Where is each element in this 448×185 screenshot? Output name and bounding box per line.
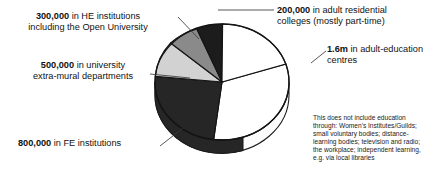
callout-extramural-line2: extra-mural departments [33, 71, 133, 81]
callout-extramural-text: in university [74, 60, 125, 70]
callout-university-extra-mural: 500,000 in university extra-mural depart… [0, 60, 166, 83]
callout-fe-value: 800,000 [18, 138, 51, 148]
callout-centres-value: 1.6m [327, 44, 348, 54]
callout-he-text: in HE institutions [69, 11, 140, 21]
exclusion-note-line-4: the workplace; independent learning, [313, 146, 446, 154]
exclusion-note-line-3: learning bodies; television and radio; [313, 138, 446, 146]
exclusion-note-line-5: e.g. via local libraries [313, 154, 446, 162]
callout-extramural-value: 500,000 [41, 60, 74, 70]
leader-line-centres [311, 51, 326, 63]
figure-canvas: 300,000 in HE institutions including the… [0, 0, 448, 185]
pie-top-face [155, 24, 289, 140]
slice-fe-institutions [155, 76, 222, 139]
callout-residential-text: in adult residential [310, 5, 387, 15]
exclusion-note-line-0: This does not include education [313, 114, 446, 122]
callout-residential-line2: colleges (mostly part-time) [277, 16, 385, 26]
callout-centres-line2: centres [327, 55, 357, 65]
exclusion-note: This does not include educationthrough: … [313, 114, 446, 162]
callout-fe-text: in FE institutions [51, 138, 121, 148]
callout-fe-institutions: 800,000 in FE institutions [18, 138, 184, 149]
callout-centres-text: in adult-education [348, 44, 423, 54]
callout-adult-residential-colleges: 200,000 in adult residential colleges (m… [277, 5, 448, 28]
callout-residential-value: 200,000 [277, 5, 310, 15]
callout-he-institutions: 300,000 in HE institutions including the… [0, 11, 176, 34]
exclusion-note-line-2: small voluntary bodies; distance- [313, 130, 446, 138]
callout-he-value: 300,000 [36, 11, 69, 21]
callout-adult-education-centres: 1.6m in adult-education centres [327, 44, 448, 67]
callout-he-line2: including the Open University [28, 22, 148, 32]
exclusion-note-line-1: through: Women's Institutes/Guilds; [313, 122, 446, 130]
